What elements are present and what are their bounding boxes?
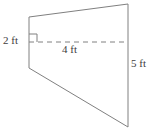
right-side-dimension-label: 5 ft bbox=[131, 58, 146, 69]
right-angle-marker-icon bbox=[29, 34, 37, 42]
left-side-dimension-label: 2 ft bbox=[3, 35, 18, 46]
quadrilateral-outline bbox=[29, 4, 128, 127]
geometry-figure: 2 ft 4 ft 5 ft bbox=[0, 0, 156, 132]
middle-height-dimension-label: 4 ft bbox=[62, 44, 77, 55]
